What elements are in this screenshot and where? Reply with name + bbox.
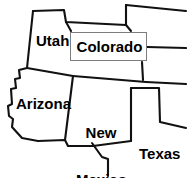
- border-wyoming-north: [126, 5, 186, 11]
- map-canvas: Utah Arizona New Mexico Texas Colorado: [0, 0, 187, 178]
- border-colorado-top-right: [126, 25, 131, 31]
- state-label-new-mexico: New Mexico: [76, 93, 126, 178]
- border-texas-panhandle: [131, 88, 186, 128]
- border-colorado-east: [142, 62, 143, 80]
- state-label-utah: Utah: [36, 33, 69, 49]
- border-colorado-kansas: [147, 47, 186, 48]
- state-label-new-mexico-line1: New: [76, 125, 126, 141]
- state-label-arizona: Arizona: [16, 96, 71, 112]
- border-utah-west: [27, 11, 33, 68]
- state-label-new-mexico-line2: Mexico: [76, 172, 126, 178]
- state-label-texas: Texas: [139, 146, 180, 162]
- border-utah-arizona: [27, 68, 73, 76]
- border-utah-north: [33, 10, 126, 25]
- state-label-colorado: Colorado: [71, 38, 148, 55]
- border-utah-colorado-top: [66, 22, 71, 31]
- colorado-callout-box[interactable]: Colorado: [70, 32, 147, 61]
- border-colorado-newmexico: [73, 76, 146, 82]
- border-oklahoma-top: [146, 82, 186, 84]
